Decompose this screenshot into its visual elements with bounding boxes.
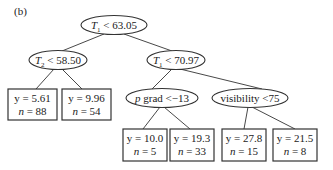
leaf-node-leaf3: y = 10.0n = 5 bbox=[123, 129, 167, 161]
leaf-mean: y = 21.5 bbox=[277, 132, 314, 144]
tree-edge bbox=[244, 107, 248, 129]
tree-edge bbox=[62, 69, 82, 89]
leaf-mean: y = 19.3 bbox=[174, 132, 211, 144]
tree-edge bbox=[36, 69, 54, 89]
leaf-node-leaf2: y = 9.96n = 54 bbox=[62, 89, 111, 120]
split-node-n_t2: T2 < 58.50 bbox=[29, 51, 87, 70]
leaf-node-leaf5: y = 27.8n = 15 bbox=[222, 129, 266, 161]
leaf-node-leaf6: y = 21.5n = 8 bbox=[273, 129, 317, 161]
leaf-count: n = 8 bbox=[284, 145, 307, 157]
split-node-root: T1 < 63.05 bbox=[81, 16, 147, 35]
threshold: < 70.97 bbox=[163, 54, 200, 66]
tree-edge bbox=[252, 107, 295, 129]
tree-edge bbox=[164, 107, 190, 129]
tree-edge bbox=[180, 69, 262, 89]
leaf-mean: y = 27.8 bbox=[226, 132, 263, 144]
leaf-count: n = 5 bbox=[134, 145, 157, 157]
leaf-mean: y = 5.61 bbox=[14, 92, 50, 104]
tree-edge bbox=[152, 69, 172, 89]
split-condition: visibility <75 bbox=[220, 92, 280, 104]
leaf-node-leaf1: y = 5.61n = 88 bbox=[8, 89, 57, 120]
split-condition: p grad <−13 bbox=[134, 92, 189, 104]
split-node-n_t1b: T1 < 70.97 bbox=[147, 51, 205, 70]
threshold: < 63.05 bbox=[101, 19, 138, 31]
split-node-n_pgrad: p grad <−13 bbox=[126, 89, 198, 108]
leaf-count: n = 88 bbox=[18, 105, 47, 117]
leaf-count: n = 54 bbox=[72, 105, 101, 117]
tree-edge bbox=[62, 34, 104, 51]
leaf-mean: y = 9.96 bbox=[68, 92, 105, 104]
tree-edge bbox=[143, 107, 160, 129]
leaf-count: n = 15 bbox=[230, 145, 259, 157]
leaf-node-leaf4: y = 19.3n = 33 bbox=[170, 129, 214, 161]
threshold: grad <−13 bbox=[141, 92, 190, 104]
regression-tree-diagram: T1 < 63.05T2 < 58.50T1 < 70.97p grad <−1… bbox=[0, 0, 333, 170]
split-node-n_vis: visibility <75 bbox=[212, 89, 288, 108]
tree-edge bbox=[124, 34, 172, 51]
leaf-mean: y = 10.0 bbox=[127, 132, 164, 144]
leaf-count: n = 33 bbox=[178, 145, 207, 157]
threshold: < 58.50 bbox=[45, 54, 82, 66]
